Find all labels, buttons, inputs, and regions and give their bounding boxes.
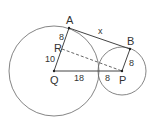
label-RQ-length: 10 — [45, 54, 55, 64]
label-BP-length: 8 — [129, 58, 134, 68]
label-AB-x: x — [98, 26, 103, 36]
label-QP-length-18: 18 — [74, 73, 84, 83]
point-P — [121, 70, 123, 72]
geometry-diagram: A B R Q P 8 10 18 8 8 x — [0, 0, 152, 124]
label-QP-length-8: 8 — [105, 73, 110, 83]
label-AR-length: 8 — [59, 32, 64, 42]
point-A — [68, 27, 70, 29]
label-B: B — [127, 35, 134, 47]
label-A: A — [66, 14, 74, 26]
label-R: R — [54, 42, 62, 54]
point-Q — [53, 70, 55, 72]
label-P: P — [119, 74, 126, 86]
segment-RP-dashed — [62, 49, 122, 71]
point-B — [129, 48, 131, 50]
label-Q: Q — [50, 74, 59, 86]
